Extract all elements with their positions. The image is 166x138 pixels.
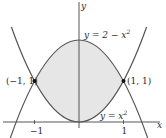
- point-label-right: (1, 1): [127, 76, 151, 86]
- upper-curve-label: y = 2 − x2: [83, 28, 130, 40]
- upper-curve-label-exponent: 2: [125, 28, 130, 35]
- x-axis-label: x: [157, 120, 162, 130]
- lower-curve-label-exponent: 2: [122, 109, 127, 116]
- x-tick-label-1: 1: [122, 126, 128, 136]
- lower-curve-label: y = x2: [99, 109, 127, 121]
- intersection-point-right: [122, 79, 126, 83]
- lower-curve-label-text: y = x: [99, 111, 123, 121]
- region-diagram: y x y = 2 − x2 y = x2 (−1, 1) (1, 1) −1 …: [0, 0, 166, 138]
- x-tick-label-neg1: −1: [30, 126, 43, 136]
- y-axis-label: y: [80, 1, 87, 11]
- upper-curve-label-text: y = 2 − x: [83, 30, 126, 40]
- point-label-left: (−1, 1): [6, 76, 38, 86]
